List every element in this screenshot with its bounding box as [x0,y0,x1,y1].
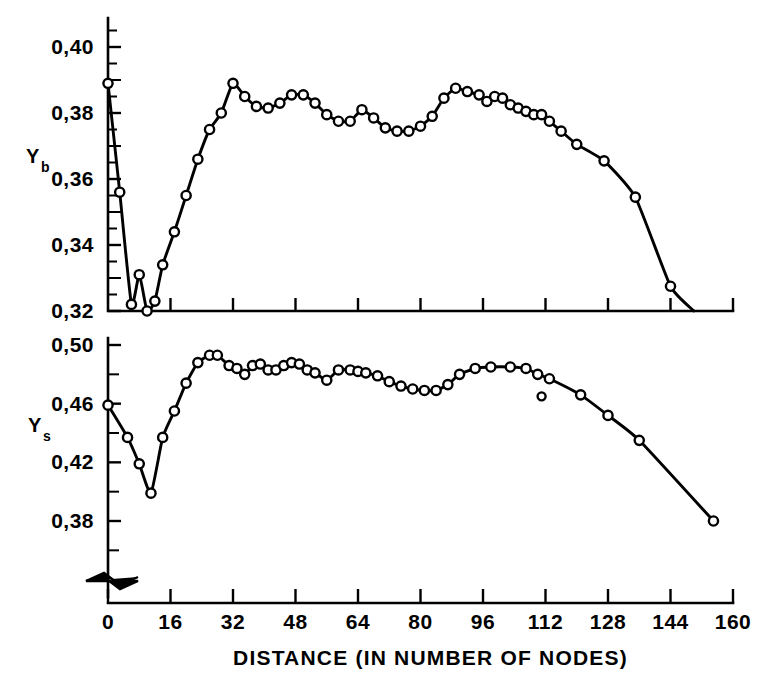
figure-container: 0,400,380,360,340,32Yb 0,500,460,420,38Y… [0,0,769,679]
bottom-data-point [123,433,132,442]
chart-svg: 0,400,380,360,340,32Yb 0,500,460,420,38Y… [0,0,769,679]
bottom-data-point [103,401,112,410]
top-data-point [631,193,640,202]
bottom-panel: 0,500,460,420,38Ys [28,333,718,597]
top-data-point [428,112,437,121]
top-y-tick-label: 0,40 [51,35,94,58]
bottom-data-point [533,370,542,379]
top-data-point [193,155,202,164]
bottom-data-point [486,362,495,371]
top-data-point [299,90,308,99]
top-panel: 0,400,380,360,340,32Yb [26,18,733,322]
top-data-point [334,117,343,126]
bottom-data-point [432,386,441,395]
bottom-data-point [213,351,222,360]
top-data-point [103,79,112,88]
bottom-data-point [443,380,452,389]
bottom-y-tick-label: 0,46 [51,392,94,415]
top-data-point [264,103,273,112]
bottom-data-point [310,368,319,377]
top-data-point [404,127,413,136]
bottom-data-point [170,406,179,415]
bottom-data-point [521,364,530,373]
bottom-data-point [709,516,718,525]
x-axis-title: DISTANCE (IN NUMBER OF NODES) [233,646,628,669]
top-data-point [240,92,249,101]
top-data-point [252,102,261,111]
top-data-point [369,113,378,122]
bottom-data-point [420,386,429,395]
bottom-data-point [373,371,382,380]
bottom-data-point [545,374,554,383]
bottom-data-point [471,364,480,373]
bottom-data-point [635,436,644,445]
top-y-tick-label: 0,38 [51,101,94,124]
top-data-curve [108,83,694,311]
top-data-point [150,297,159,306]
x-axis-tick-label: 48 [283,610,307,633]
top-data-point [545,117,554,126]
x-axis-tick-label: 96 [471,610,495,633]
x-axis: 0163248648096112128144160DISTANCE (IN NU… [86,573,751,669]
bottom-data-point [361,368,370,377]
bottom-data-point-outlier [538,392,546,400]
bottom-data-point [603,411,612,420]
bottom-data-point [322,376,331,385]
bottom-axis-label: Y [28,414,42,436]
top-data-point [346,117,355,126]
bottom-data-point [158,433,167,442]
top-data-point [287,90,296,99]
top-axis-label-subscript: b [41,159,50,175]
bottom-data-point [146,489,155,498]
x-axis-tick-label: 16 [158,610,182,633]
bottom-data-point [193,358,202,367]
bottom-data-point [334,365,343,374]
top-data-point [322,110,331,119]
x-axis-tick-label: 80 [408,610,432,633]
x-axis-tick-label: 128 [590,610,627,633]
x-axis-tick-label: 144 [652,610,689,633]
top-data-point [666,282,675,291]
top-data-point [557,127,566,136]
top-data-point [439,94,448,103]
x-axis-tick-label: 0 [102,610,114,633]
top-data-point [381,123,390,132]
bottom-axis-label-subscript: s [43,428,51,444]
top-data-point [170,227,179,236]
top-data-point [228,79,237,88]
top-data-point [115,188,124,197]
top-data-point [275,99,284,108]
bottom-data-point [135,459,144,468]
top-data-point [463,87,472,96]
bottom-data-point [576,390,585,399]
top-data-point [416,122,425,131]
top-data-point [599,156,608,165]
top-data-point [127,300,136,309]
x-axis-tick-label: 160 [715,610,752,633]
x-axis-tick-label: 112 [528,610,563,633]
top-data-point [310,99,319,108]
bottom-y-tick-label: 0,38 [51,509,94,532]
top-y-tick-label: 0,34 [51,233,94,256]
top-data-point [451,84,460,93]
bottom-y-tick-label: 0,50 [51,333,94,356]
bottom-data-point [506,362,515,371]
x-axis-tick-label: 32 [221,610,245,633]
top-data-point [357,105,366,114]
top-data-point [158,260,167,269]
bottom-data-point [455,370,464,379]
top-data-point [572,140,581,149]
bottom-data-point [408,384,417,393]
top-data-point [135,270,144,279]
top-data-point [392,127,401,136]
top-data-point [217,108,226,117]
top-data-point [182,191,191,200]
bottom-data-curve [108,355,713,521]
top-y-tick-label: 0,36 [51,167,94,190]
top-y-tick-label: 0,32 [51,299,94,322]
bottom-data-point [396,381,405,390]
bottom-y-tick-label: 0,42 [51,450,94,473]
bottom-data-point [240,370,249,379]
bottom-data-point [182,379,191,388]
top-data-point [205,125,214,134]
